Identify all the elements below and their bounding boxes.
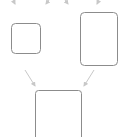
- arrow-top-3-arrow-icon: [62, 0, 68, 4]
- arrow-top-4-arrow-icon: [97, 0, 101, 4]
- arrow-right-to-bottom-arrow-icon: [84, 70, 94, 86]
- box-tall-right: [81, 13, 118, 66]
- arrow-top-1-arrow-icon: [11, 0, 15, 4]
- box-bottom-center: [36, 91, 82, 138]
- diagram-canvas: [0, 0, 119, 137]
- box-small-left: [12, 24, 41, 54]
- arrow-top-2-arrow-icon: [46, 0, 52, 4]
- arrow-left-to-bottom-arrow-icon: [25, 70, 35, 86]
